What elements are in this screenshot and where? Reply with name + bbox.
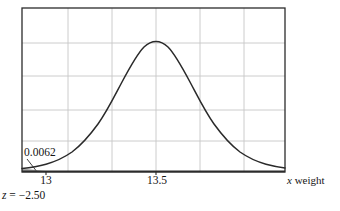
z-label-value: = −2.50 [9, 189, 45, 201]
x-axis-label: x weight [287, 175, 325, 186]
x-axis-label-text: weight [295, 174, 325, 186]
annotation-leader-line [27, 159, 36, 171]
horizontal-gridlines [22, 43, 285, 141]
normal-distribution-chart: 13 13.5 x weight 0.0062 z = −2.50 [0, 0, 340, 211]
vertical-gridlines [68, 8, 244, 172]
x-tick-label-13-5: 13.5 [140, 175, 174, 187]
x-tick-label-13: 13 [33, 175, 59, 187]
normal-curve [22, 42, 285, 169]
tail-area-annotation: 0.0062 [24, 147, 56, 159]
z-value-label: z = −2.50 [2, 190, 45, 202]
plot-frame [22, 8, 285, 172]
